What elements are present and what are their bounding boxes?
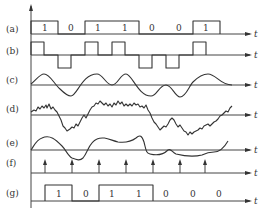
- t-axis-arrow-icon: [245, 199, 252, 203]
- panel-g: (g) t 1 0 1 1 0 0 0: [6, 185, 258, 206]
- t-axis-arrow-icon: [245, 32, 252, 36]
- t-axis-arrow-icon: [245, 171, 252, 175]
- bit-label: 1: [109, 189, 115, 199]
- panel-b: (b) t: [6, 42, 258, 68]
- bit-label: 1: [136, 189, 142, 199]
- sample-arrow-icon: [43, 159, 47, 165]
- vertical-axis: [29, 4, 33, 208]
- panel-c: (c) t: [6, 74, 258, 97]
- panel-label-f: (f): [6, 158, 16, 168]
- t-axis-arrow-icon: [245, 113, 252, 117]
- bit-label: 0: [149, 23, 155, 33]
- sample-arrow-icon: [151, 159, 155, 165]
- panel-label-b: (b): [6, 46, 19, 56]
- digital-transmission-waveform-diagram: (a) t 1 0 1 1 0 0 1 (b) t (c) t (d) t (e: [0, 0, 265, 215]
- bit-label: 1: [95, 23, 101, 33]
- panel-label-a: (a): [6, 24, 18, 34]
- sample-arrow-icon: [124, 159, 128, 165]
- t-axis-arrow-icon: [245, 83, 252, 87]
- t-axis-label: t: [254, 80, 258, 90]
- t-axis-label: t: [254, 29, 258, 39]
- bit-label: 0: [190, 189, 196, 199]
- bit-label: 1: [203, 23, 209, 33]
- sample-arrow-icon: [70, 159, 74, 165]
- t-axis-label: t: [254, 196, 258, 206]
- t-axis-label: t: [254, 50, 258, 60]
- bit-label: 0: [83, 189, 89, 199]
- t-axis-arrow-icon: [245, 148, 252, 152]
- bit-label: 0: [176, 23, 182, 33]
- sample-arrow-icon: [97, 159, 101, 165]
- sampling-arrows: [43, 159, 207, 173]
- bit-label: 0: [163, 189, 169, 199]
- bit-label: 1: [42, 23, 48, 33]
- bit-label: 1: [122, 23, 128, 33]
- panel-e: (e) t: [6, 136, 258, 160]
- t-axis-arrow-icon: [245, 53, 252, 57]
- bit-label: 0: [216, 189, 222, 199]
- t-axis-label: t: [254, 110, 258, 120]
- panel-f: (f) t: [6, 158, 258, 178]
- panel-d: (d) t: [6, 101, 258, 135]
- panel-label-d: (d): [6, 104, 19, 114]
- t-axis-label: t: [254, 168, 258, 178]
- panel-label-e: (e): [6, 138, 18, 148]
- sample-arrow-icon: [203, 159, 207, 165]
- panel-a: (a) t 1 0 1 1 0 0 1: [6, 21, 258, 39]
- bit-label: 1: [56, 189, 62, 199]
- t-axis-label: t: [254, 145, 258, 155]
- panel-label-c: (c): [6, 75, 18, 85]
- sample-arrow-icon: [178, 159, 182, 165]
- bit-label: 0: [68, 23, 74, 33]
- panel-label-g: (g): [6, 188, 19, 198]
